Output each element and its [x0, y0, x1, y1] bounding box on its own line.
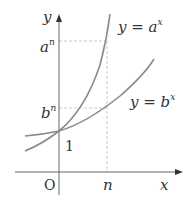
- b-n-label: bn: [41, 103, 57, 122]
- curve-a-x: [25, 14, 110, 151]
- x-axis-arrow-icon: [175, 169, 183, 175]
- curve-b-label: y = bx: [129, 92, 175, 111]
- n-tick-label: n: [103, 176, 113, 194]
- origin-label: O: [44, 177, 55, 193]
- y-axis-arrow-icon: [56, 14, 62, 22]
- y-axis-label: y: [42, 8, 52, 26]
- one-label: 1: [65, 138, 74, 154]
- curve-a-label: y = ax: [117, 17, 163, 36]
- a-n-label: an: [40, 37, 55, 56]
- exponential-diagram: y x O n 1 an bn y = ax y = bx: [0, 0, 193, 207]
- x-axis-label: x: [160, 176, 169, 194]
